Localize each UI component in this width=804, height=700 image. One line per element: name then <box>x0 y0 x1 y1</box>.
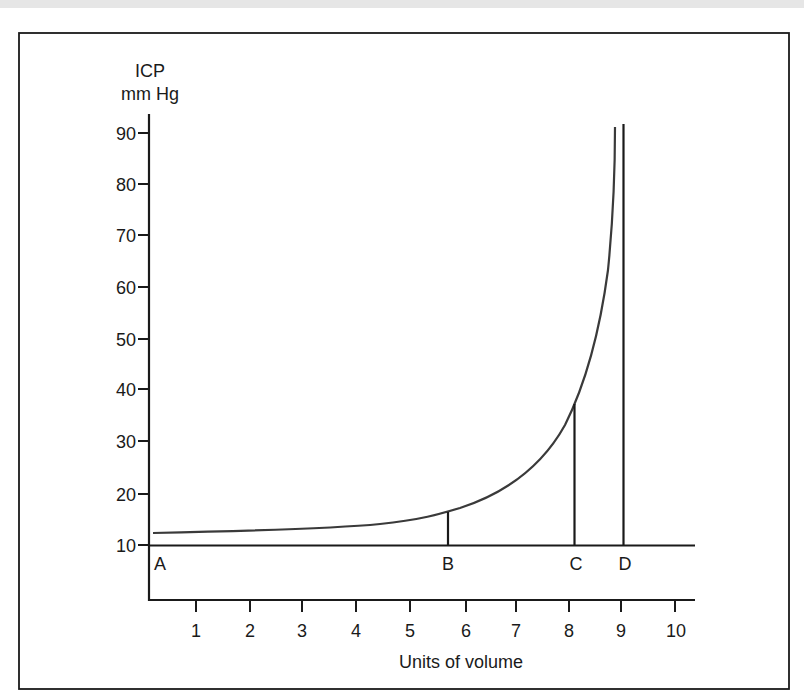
y-axis-label-icp: ICP <box>135 61 165 81</box>
x-tick-label-8: 8 <box>564 621 574 641</box>
point-label-d: D <box>619 554 632 574</box>
x-axis-label: Units of volume <box>399 652 523 672</box>
pressure-volume-curve <box>153 127 615 533</box>
x-tick-label-9: 9 <box>616 621 626 641</box>
y-tick-label-80: 80 <box>116 175 136 195</box>
point-label-c: C <box>570 554 583 574</box>
point-label-b: B <box>442 554 454 574</box>
y-tick-label-50: 50 <box>116 330 136 350</box>
x-tick-label-2: 2 <box>245 621 255 641</box>
x-tick-label-7: 7 <box>511 621 521 641</box>
icp-volume-chart: ICP mm Hg 90 80 70 60 50 40 30 20 10 <box>0 0 804 700</box>
y-tick-label-90: 90 <box>116 124 136 144</box>
y-tick-label-60: 60 <box>116 278 136 298</box>
y-tick-label-70: 70 <box>116 226 136 246</box>
y-tick-label-40: 40 <box>116 380 136 400</box>
x-tick-label-5: 5 <box>405 621 415 641</box>
x-tick-label-3: 3 <box>297 621 307 641</box>
y-axis-ticks <box>138 133 149 545</box>
x-tick-label-1: 1 <box>191 621 201 641</box>
x-tick-label-10: 10 <box>666 621 686 641</box>
point-label-a: A <box>154 554 166 574</box>
y-tick-label-20: 20 <box>116 485 136 505</box>
x-tick-label-6: 6 <box>461 621 471 641</box>
x-tick-label-4: 4 <box>351 621 361 641</box>
y-axis-label-unit: mm Hg <box>121 84 179 104</box>
y-tick-label-30: 30 <box>116 432 136 452</box>
y-tick-label-10: 10 <box>116 536 136 556</box>
x-axis-ticks <box>196 600 675 612</box>
